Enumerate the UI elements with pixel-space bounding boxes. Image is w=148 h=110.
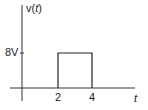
x-tick-label-2: 2 xyxy=(55,92,61,103)
y-axis-label-close: ) xyxy=(38,2,42,14)
x-tick-label-4: 4 xyxy=(89,92,95,103)
pulse-line xyxy=(58,53,92,88)
y-axis-label-v: v( xyxy=(26,2,35,14)
pulse-chart xyxy=(0,0,148,110)
y-tick-label-8v: 8V xyxy=(5,47,18,58)
x-axis-label: t xyxy=(134,93,137,104)
y-axis-label: v(t) xyxy=(26,3,42,14)
